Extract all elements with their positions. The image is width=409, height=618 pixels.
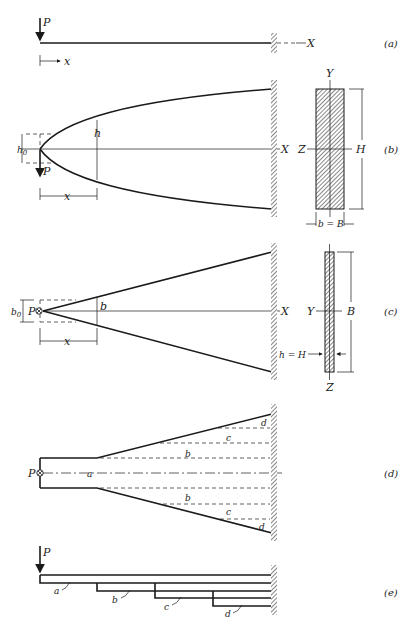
z-axis-label: Z: [325, 381, 334, 394]
axis-label-x: X: [280, 143, 290, 156]
panel-label: (a): [384, 38, 398, 49]
spring-bottom-edge: [40, 488, 272, 533]
panel-c: X b0 P b x Y Z B h = H (c): [11, 243, 398, 394]
panel-a: X P x (a): [40, 16, 398, 68]
y-axis-label: Y: [326, 67, 335, 80]
section-height-label: h = H: [279, 350, 306, 360]
load-label: P: [27, 305, 36, 318]
panel-label: (e): [384, 587, 398, 598]
leaf-label-a: a: [54, 586, 59, 596]
panel-d: P a b c d b c d (d): [27, 404, 398, 541]
leaf-label-c: c: [226, 507, 231, 517]
section-height-label: H: [355, 143, 366, 156]
y-axis-label: Y: [307, 305, 316, 318]
leaf-label-d: d: [225, 609, 231, 618]
panel-label: (b): [384, 144, 398, 155]
leaf-label-c: c: [226, 433, 231, 443]
leaf-label-b: b: [185, 493, 191, 503]
leaf-a: [40, 575, 271, 583]
load-label: P: [42, 165, 51, 178]
axis-label-x: X: [280, 305, 290, 318]
section-width-label: b = B: [318, 219, 344, 229]
fixed-support: [271, 33, 277, 53]
spring-top-edge: [40, 414, 272, 458]
fixed-support: [271, 80, 277, 217]
beam-top-edge: [43, 252, 272, 311]
beam-bottom-edge: [43, 311, 272, 372]
leaf-label-b: b: [185, 449, 191, 459]
leaf-label-c: c: [164, 602, 169, 612]
beam-top-edge: [40, 89, 272, 149]
leaf-b: [97, 583, 271, 591]
load-label: P: [42, 546, 51, 559]
leaf-label-a: a: [87, 469, 92, 479]
coord-label: x: [64, 335, 71, 348]
beam-figure: X P x (a) X h0 P h x Y Z: [0, 0, 409, 618]
panel-label: (c): [384, 306, 398, 317]
axis-label-x: X: [306, 37, 316, 50]
panel-e: P a b c d (e): [40, 546, 398, 618]
tip-width-label: b0: [11, 307, 22, 319]
z-axis-label: Z: [297, 143, 306, 156]
leaf-label-d: d: [261, 418, 267, 428]
fixed-support: [271, 404, 277, 541]
height-label: h: [94, 127, 101, 140]
leaf-label-b: b: [112, 595, 118, 605]
leaf-label-d: d: [259, 522, 265, 532]
panel-label: (d): [384, 468, 398, 479]
load-label: P: [42, 16, 51, 29]
coord-label: x: [64, 190, 71, 203]
fixed-support: [271, 565, 277, 615]
load-label: P: [27, 467, 36, 480]
width-label: b: [100, 300, 107, 313]
panel-b: X h0 P h x Y Z H b = B (b): [17, 67, 398, 229]
fixed-support: [271, 243, 277, 380]
tip-height-label: h0: [17, 145, 28, 157]
coord-label: x: [64, 55, 71, 68]
section-width-label: B: [346, 305, 355, 318]
beam-bottom-edge: [40, 149, 272, 209]
